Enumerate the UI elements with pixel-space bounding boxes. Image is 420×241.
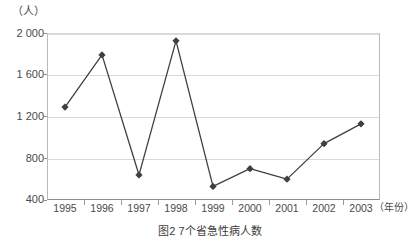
plot-area — [47, 33, 380, 200]
y-axis-unit-label: （人） — [12, 2, 45, 18]
figure-caption: 图2 7个省急性病人数 — [0, 222, 420, 238]
ytick-mark-2000 — [43, 33, 47, 34]
gridline-2000 — [48, 34, 379, 35]
gridline-800 — [48, 159, 379, 160]
ytick-mark-1600 — [43, 74, 47, 75]
ytick-label-1600: 1 600 — [2, 68, 44, 80]
ytick-label-800: 800 — [2, 152, 44, 164]
x-axis-unit-label: （年份） — [374, 199, 414, 214]
ytick-mark-1200 — [43, 116, 47, 117]
ytick-mark-800 — [43, 158, 47, 159]
gridline-1200 — [48, 117, 379, 118]
ytick-mark-400 — [43, 200, 47, 201]
ytick-label-1200: 1 200 — [2, 110, 44, 122]
ytick-label-400: 400 — [2, 193, 44, 205]
gridline-1600 — [48, 75, 379, 76]
figure-container: （人） 2 000 1 600 1 200 800 400 1995 1996 … — [0, 0, 420, 241]
ytick-label-2000: 2 000 — [2, 27, 44, 39]
